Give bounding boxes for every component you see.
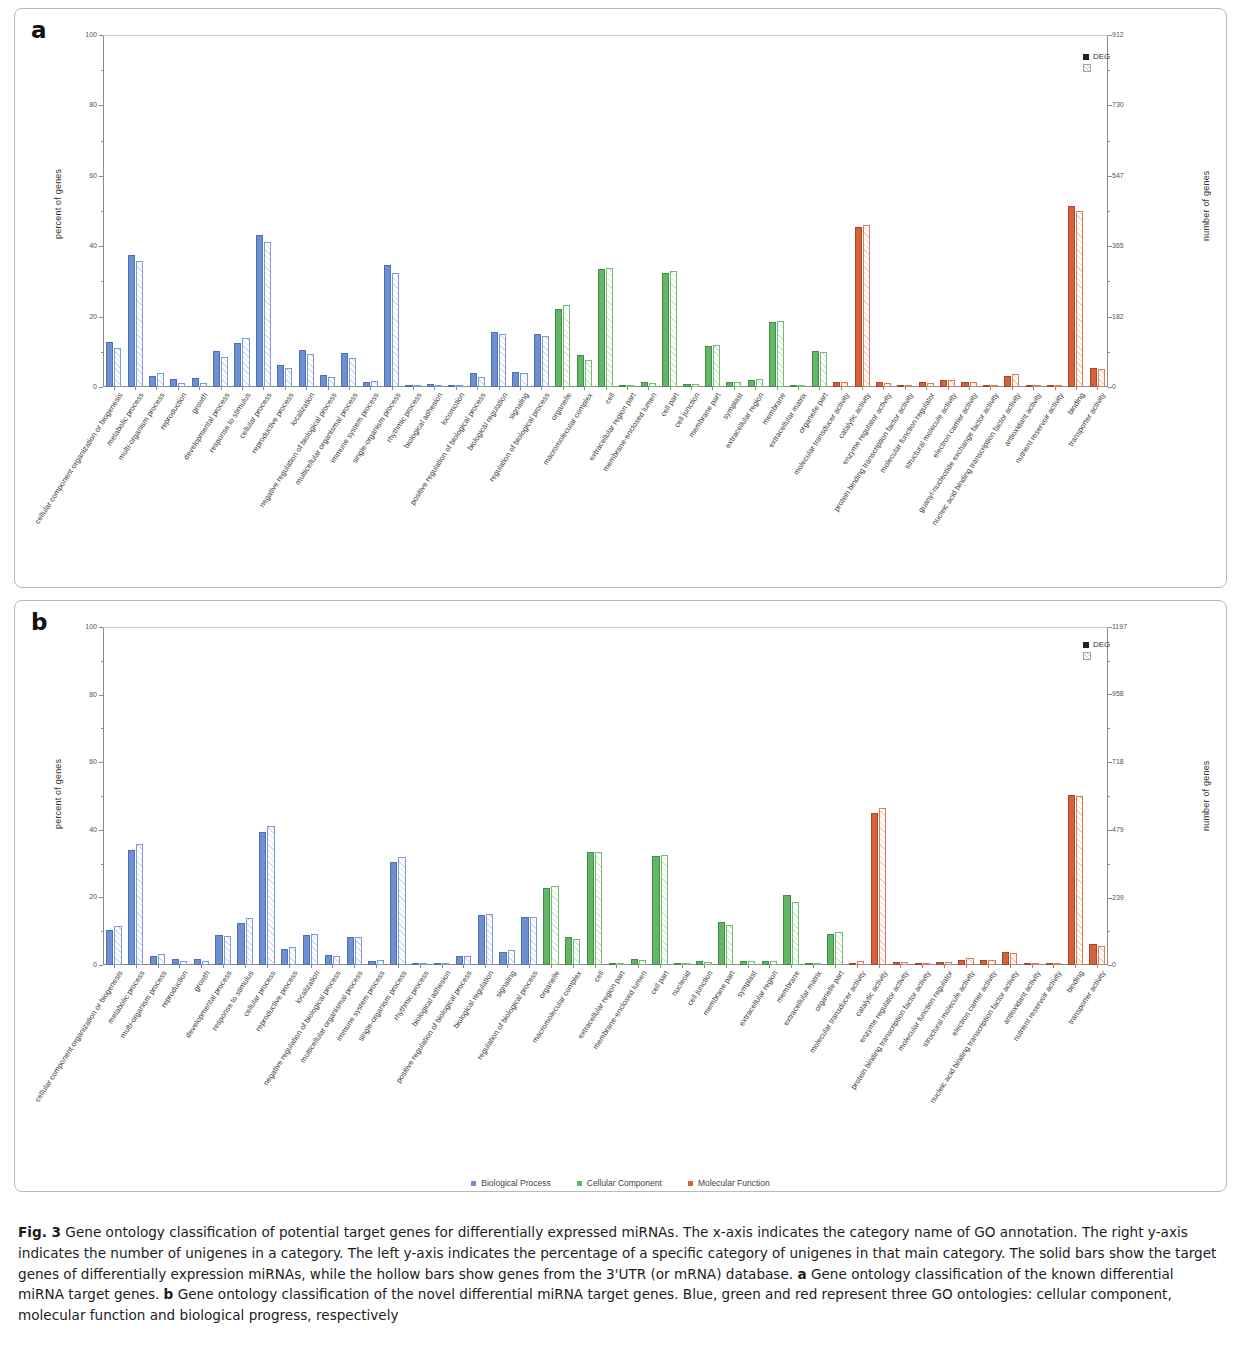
panel-b-y2-axis-label: number of genes	[1201, 760, 1211, 831]
y2-minor-tick	[1108, 931, 1110, 932]
y-tick-label: 80	[67, 691, 97, 698]
x-tick	[499, 387, 500, 390]
y-tick-label: 100	[67, 31, 97, 38]
x-axis-tick-label-text: cellular component organization or bioge…	[33, 969, 125, 1103]
y-tick	[99, 965, 103, 966]
x-tick	[944, 965, 945, 968]
x-tick	[199, 387, 200, 390]
x-axis-tick-label-text: biological regulation	[465, 391, 509, 452]
x-tick	[879, 965, 880, 968]
x-axis-tick-label-text: cell	[602, 391, 616, 405]
legend-solid-swatch-icon	[1083, 642, 1089, 648]
caption-bold-label: Fig. 3	[18, 1224, 61, 1240]
x-tick	[398, 965, 399, 968]
x-tick	[791, 965, 792, 968]
x-tick	[541, 387, 542, 390]
ontology-legend-swatch-icon	[471, 1181, 476, 1186]
bar-database	[221, 357, 228, 387]
panel-a-plot-area: 0204060801000182365547730912	[103, 35, 1108, 387]
x-tick	[456, 387, 457, 390]
y2-minor-tick	[1108, 211, 1110, 212]
legend-entry-label: DEG	[1093, 52, 1110, 61]
figure-page: a 0204060801000182365547730912 percent o…	[0, 0, 1241, 1356]
panel-a: a 0204060801000182365547730912 percent o…	[14, 8, 1227, 588]
ontology-legend-item: Biological Process	[471, 1178, 550, 1188]
x-tick	[1010, 965, 1011, 968]
x-tick	[551, 965, 552, 968]
x-tick	[926, 387, 927, 390]
x-tick	[819, 387, 820, 390]
x-tick	[413, 387, 414, 390]
x-tick	[841, 387, 842, 390]
caption-bold-label: b	[164, 1286, 174, 1302]
panel-b-letter: b	[31, 609, 47, 635]
legend-hollow-swatch-icon	[1083, 64, 1091, 72]
x-tick	[463, 965, 464, 968]
panel-a-y-axis-label: percent of genes	[53, 169, 63, 239]
x-tick	[267, 965, 268, 968]
y-tick-label: 60	[67, 172, 97, 179]
x-tick	[1075, 965, 1076, 968]
x-tick	[392, 387, 393, 390]
x-tick	[813, 965, 814, 968]
x-axis-tick-label-text: reproductive process	[253, 969, 299, 1033]
x-tick	[988, 965, 989, 968]
y2-tick-label: 718	[1112, 758, 1142, 765]
caption-text: Gene ontology classification of the nove…	[18, 1286, 1172, 1323]
x-tick	[114, 965, 115, 968]
x-tick	[263, 387, 264, 390]
bar-series	[103, 35, 1108, 387]
x-tick	[156, 387, 157, 390]
x-tick	[969, 387, 970, 390]
panel-a-y2-axis-label: number of genes	[1201, 170, 1211, 241]
x-tick	[135, 387, 136, 390]
x-tick	[306, 387, 307, 390]
x-tick	[563, 387, 564, 390]
panel-b: b 02040608010002394797189581197 percent …	[14, 600, 1227, 1192]
x-axis-tick-label-text: binding	[1065, 969, 1086, 994]
y2-tick-label: 0	[1112, 383, 1142, 390]
legend-entry: DEG	[1083, 51, 1110, 62]
caption-bold-label: a	[797, 1266, 806, 1282]
x-tick	[966, 965, 967, 968]
x-tick	[311, 965, 312, 968]
ontology-legend-label: Molecular Function	[698, 1178, 770, 1188]
y-tick-label: 100	[67, 623, 97, 630]
x-tick	[245, 965, 246, 968]
ontology-legend: Biological ProcessCellular ComponentMole…	[0, 1178, 1241, 1188]
x-tick	[1097, 965, 1098, 968]
bar-series	[103, 627, 1108, 965]
x-tick	[285, 387, 286, 390]
x-axis-tick-label-text: biological regulation	[452, 969, 496, 1030]
y-tick-label: 80	[67, 101, 97, 108]
y2-minor-tick	[1108, 352, 1110, 353]
x-tick	[289, 965, 290, 968]
x-tick	[883, 387, 884, 390]
x-tick	[616, 965, 617, 968]
x-tick	[520, 387, 521, 390]
ontology-legend-item: Cellular Component	[577, 1178, 662, 1188]
x-tick	[990, 387, 991, 390]
x-tick	[584, 387, 585, 390]
x-tick	[201, 965, 202, 968]
x-tick	[328, 387, 329, 390]
y-tick-label: 40	[67, 826, 97, 833]
x-tick	[900, 965, 901, 968]
figure-caption: Fig. 3 Gene ontology classification of p…	[18, 1222, 1223, 1326]
bar-deg	[855, 227, 862, 388]
panel-a-letter: a	[31, 17, 47, 43]
x-axis-tick-label-text: cell part	[649, 969, 671, 996]
y2-tick-label: 182	[1112, 313, 1142, 320]
y2-minor-tick	[1108, 728, 1110, 729]
x-tick	[691, 387, 692, 390]
y2-tick-label: 912	[1112, 31, 1142, 38]
x-tick	[179, 965, 180, 968]
legend-entry: DEG	[1083, 639, 1110, 650]
panel-b-plot-area: 02040608010002394797189581197	[103, 627, 1108, 965]
x-tick	[638, 965, 639, 968]
y-tick-label: 0	[67, 961, 97, 968]
x-tick	[948, 387, 949, 390]
x-tick	[627, 387, 628, 390]
x-tick	[1012, 387, 1013, 390]
bar-database	[114, 348, 121, 387]
